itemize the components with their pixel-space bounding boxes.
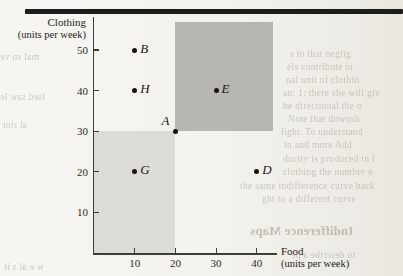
bleed-through-text-fragment: in and more Add xyxy=(284,140,352,150)
y-axis-tick-label: 30 xyxy=(60,125,88,137)
bleed-through-text-fragment: the same indifference curve back xyxy=(240,181,375,191)
y-axis-line xyxy=(93,17,95,255)
x-axis-tick-label: 40 xyxy=(247,257,267,269)
point-label-G: G xyxy=(140,163,149,176)
data-point-A xyxy=(173,129,178,134)
x-axis-tick xyxy=(134,248,135,253)
bleed-through-text-fragment: ght to a different curve xyxy=(262,194,356,204)
y-axis-tick xyxy=(94,90,99,91)
y-axis-tick xyxy=(94,131,99,132)
data-point-B xyxy=(132,48,137,53)
x-axis-line xyxy=(93,253,278,255)
bleed-through-text-fragment: nal unit of clothin xyxy=(286,75,360,85)
x-axis-title: Food (units per week) xyxy=(281,245,349,270)
inferior-to-A-region xyxy=(94,131,175,253)
bleed-through-text-fragment: w e al s it xyxy=(4,262,44,272)
data-point-D xyxy=(254,169,259,174)
bleed-through-text-fragment: ised saw le xyxy=(0,92,45,102)
bleed-through-text-fragment: clothing the number o xyxy=(283,167,373,177)
point-label-A: A xyxy=(161,114,169,127)
bleed-through-text-fragment: light. To understand xyxy=(281,127,363,137)
bleed-through-text-fragment: an: 1; there she will giv xyxy=(283,88,380,98)
x-axis-title-line1: Food xyxy=(281,245,349,258)
x-axis-tick xyxy=(216,248,217,253)
bleed-through-text-fragment: be directional the o xyxy=(283,101,362,111)
point-label-H: H xyxy=(140,82,149,95)
scanned-textbook-figure: Clothing (units per week) Food (units pe… xyxy=(0,0,403,276)
y-axis-tick-label: 10 xyxy=(60,206,88,218)
bleed-through-text-fragment: els contribute or xyxy=(287,62,354,72)
x-axis-tick xyxy=(256,248,257,253)
y-axis-tick-label: 40 xyxy=(60,85,88,97)
x-axis-title-line2: (units per week) xyxy=(281,258,349,271)
x-axis-tick-label: 20 xyxy=(165,257,185,269)
bleed-through-heading: Indifference Maps xyxy=(250,224,353,239)
y-axis-tick-label: 50 xyxy=(60,44,88,56)
y-axis-tick-label: 20 xyxy=(60,166,88,178)
x-axis-tick-label: 10 xyxy=(125,257,145,269)
preferred-to-A-region xyxy=(175,22,273,132)
y-axis-tick xyxy=(94,171,99,172)
figure-top-rule xyxy=(25,9,403,14)
bleed-through-text-fragment: s to that neglig xyxy=(290,49,351,59)
point-label-D: D xyxy=(262,163,271,176)
y-axis-tick xyxy=(94,212,99,213)
bleed-through-text-fragment: ducity is produced in l xyxy=(283,154,375,164)
y-axis-tick xyxy=(94,49,99,50)
x-axis-tick xyxy=(175,248,176,253)
data-point-E xyxy=(214,88,219,93)
y-axis-title-line2: (units per week) xyxy=(4,29,86,42)
point-label-B: B xyxy=(140,42,148,55)
bleed-through-text-fragment: mal sn ve xyxy=(0,52,39,62)
bleed-through-text-fragment: al rior xyxy=(2,120,27,130)
y-axis-title-line1: Clothing xyxy=(4,16,86,29)
point-label-E: E xyxy=(222,82,230,95)
bleed-through-text-fragment: Note that downsh xyxy=(288,114,360,124)
x-axis-tick-label: 30 xyxy=(206,257,226,269)
data-point-H xyxy=(132,88,137,93)
y-axis-title: Clothing (units per week) xyxy=(4,16,86,41)
